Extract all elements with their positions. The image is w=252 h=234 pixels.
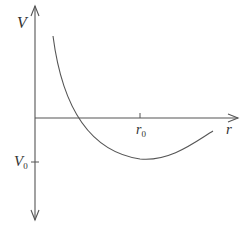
potential-energy-diagram: V r r0 V0 <box>0 0 252 234</box>
y-axis-label: V <box>17 14 29 31</box>
v0-label: V0 <box>14 153 28 171</box>
potential-curve <box>53 36 213 159</box>
r0-label: r0 <box>136 122 146 139</box>
x-axis-label: r <box>226 121 232 137</box>
